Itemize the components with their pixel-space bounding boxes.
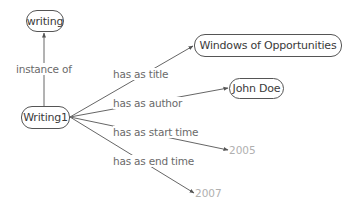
node-title-label: Windows of Opportunities <box>200 39 337 52</box>
edge-label-has-as-author: has as author <box>113 97 182 109</box>
node-writing-label: writing <box>27 15 64 28</box>
node-writing[interactable]: writing <box>26 10 64 32</box>
literal-start-time: 2005 <box>229 144 256 156</box>
literal-end-time: 2007 <box>195 187 222 199</box>
node-writing1[interactable]: Writing1 <box>21 106 70 129</box>
edge-label-instance-of: instance of <box>16 63 72 75</box>
edge-label-has-as-start-time: has as start time <box>113 126 198 138</box>
node-writing1-label: Writing1 <box>23 111 68 124</box>
edge-label-has-as-title: has as title <box>113 68 168 80</box>
node-author-label: John Doe <box>233 82 281 95</box>
knowledge-graph-canvas: writing Writing1 Windows of Opportunitie… <box>0 0 345 208</box>
node-title[interactable]: Windows of Opportunities <box>194 34 342 57</box>
edge-label-has-as-end-time: has as end time <box>113 155 194 167</box>
node-author[interactable]: John Doe <box>229 78 284 99</box>
